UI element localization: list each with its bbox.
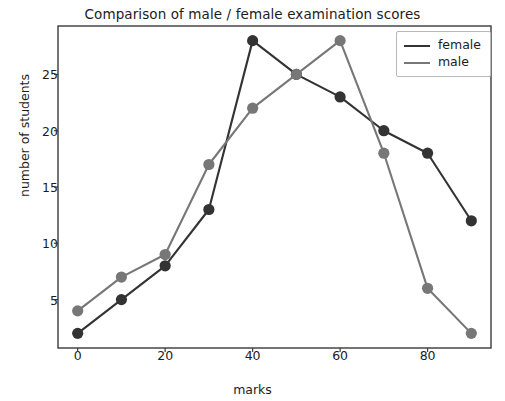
data-point-male-60 [335,35,346,46]
data-point-male-50 [291,69,302,80]
legend-item-male: male [404,54,481,71]
chart-figure: Comparison of male / female examination … [0,0,505,401]
data-point-male-0 [72,305,83,316]
legend-label-female: female [438,39,481,52]
data-point-male-20 [160,249,171,260]
data-point-female-90 [466,215,477,226]
data-point-male-90 [466,328,477,339]
data-point-female-30 [203,204,214,215]
data-point-male-40 [247,103,258,114]
data-point-male-80 [422,283,433,294]
data-point-male-30 [203,159,214,170]
data-point-male-10 [116,271,127,282]
data-point-female-60 [335,91,346,102]
data-point-female-70 [378,125,389,136]
data-point-female-80 [422,148,433,159]
data-point-female-40 [247,35,258,46]
data-point-female-10 [116,294,127,305]
legend-swatch-female [404,45,430,47]
data-point-female-0 [72,328,83,339]
chart-legend: female male [396,31,491,77]
data-point-male-70 [378,148,389,159]
data-point-female-20 [160,260,171,271]
legend-label-male: male [438,56,469,69]
legend-item-female: female [404,37,481,54]
legend-swatch-male [404,62,430,64]
